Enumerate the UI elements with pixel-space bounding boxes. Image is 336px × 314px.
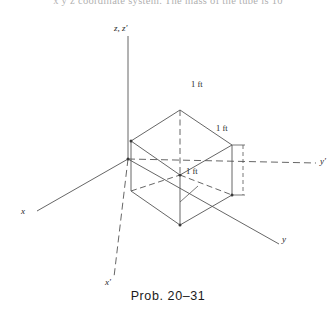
- vertex-cube-right: [231, 194, 234, 197]
- figure-caption: Prob. 20–31: [0, 289, 336, 303]
- dimension-label-right: 1 ft: [216, 124, 228, 133]
- y-prime-axis-label: y′: [320, 157, 326, 166]
- figure-svg: [0, 0, 336, 314]
- x-axis-label: x: [21, 207, 25, 216]
- y-axis-label: y: [282, 235, 286, 244]
- vertex-cube-left: [130, 140, 133, 143]
- vertex-cube-front: [179, 224, 182, 227]
- y-axis-line: [128, 159, 279, 244]
- x-prime-axis-label: x′: [105, 278, 111, 287]
- dimension-label-top: 1 ft: [191, 80, 203, 89]
- cube-edge-bottom-left-front: [131, 191, 180, 225]
- cube-edge-top-left-back: [131, 110, 180, 141]
- figure-diagram: z, z′ x y y′ x′ 1 ft 1 ft 1 ft Prob. 20–…: [0, 0, 336, 314]
- dimension-leader-bottom: [180, 186, 198, 202]
- x-axis-line: [37, 159, 128, 211]
- vertex-cube-center: [179, 174, 182, 177]
- x-prime-axis-line: [114, 159, 128, 277]
- cube-edge-top-front-left: [131, 141, 180, 175]
- z-axis-label: z, z′: [114, 24, 127, 33]
- cube-edge-bottom-front-right: [180, 195, 232, 225]
- y-prime-axis-line: [128, 159, 316, 163]
- axis-group: [37, 36, 316, 277]
- cube-hidden-edge-center-right: [180, 175, 232, 195]
- dimension-label-bottom: 1 ft: [186, 167, 198, 176]
- cube-hidden-edge-left-center: [131, 175, 180, 191]
- vertex-origin: [127, 158, 130, 161]
